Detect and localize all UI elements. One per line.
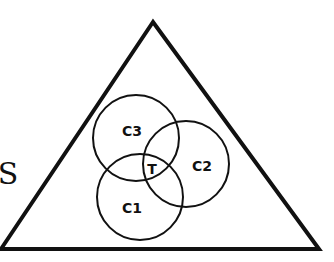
circle-c3-label: C3 (122, 123, 142, 139)
intersection-label: T (147, 161, 157, 177)
circle-c1-label: C1 (122, 200, 142, 216)
universe-label: S (0, 156, 18, 191)
circle-c2-label: C2 (192, 158, 212, 174)
universe-triangle (1, 22, 319, 249)
circle-c1 (97, 154, 183, 240)
venn-diagram: S C3 C2 C1 T (0, 0, 334, 262)
